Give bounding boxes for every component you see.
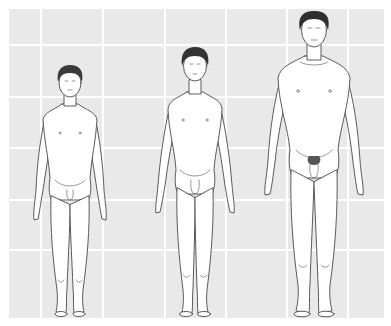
figure-late-stage <box>265 11 363 317</box>
left-foot <box>180 312 193 317</box>
left-foot <box>294 311 310 317</box>
right-foot <box>198 312 211 317</box>
right-leg <box>70 196 89 313</box>
figure-early-stage <box>34 65 107 317</box>
left-leg <box>177 188 195 313</box>
right-leg <box>314 170 337 313</box>
figures-layer <box>0 0 391 326</box>
left-foot <box>55 312 67 317</box>
right-foot <box>73 312 85 317</box>
neck <box>189 80 201 94</box>
figure-middle-stage <box>156 47 235 317</box>
left-leg <box>291 170 314 313</box>
right-foot <box>318 311 334 317</box>
right-leg <box>195 188 213 313</box>
torso <box>43 104 97 200</box>
left-leg <box>51 196 70 313</box>
torso <box>168 92 222 194</box>
